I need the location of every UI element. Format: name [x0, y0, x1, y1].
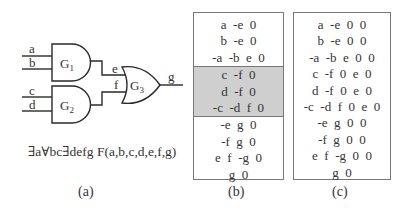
- wire-label-g: g: [168, 69, 175, 84]
- clause-row: e f -g 0 0: [294, 148, 390, 164]
- wire-f: [91, 92, 127, 105]
- clause-row-shaded: c -f 0: [194, 67, 283, 83]
- wire-label-e: e: [112, 61, 118, 76]
- clause-row: -f g 0 0: [294, 132, 390, 148]
- input-label-a: a: [29, 41, 35, 56]
- wire-e: [91, 61, 127, 75]
- wire-label-f: f: [114, 77, 119, 92]
- clause-row: e f -g 0: [194, 150, 283, 166]
- clause-row: b -e 0: [194, 33, 283, 49]
- clause-row: -e g 0 0: [294, 115, 390, 131]
- input-label-d: d: [29, 97, 36, 112]
- clause-row: c -f 0 e 0: [294, 66, 390, 82]
- clause-row: a -e 0: [194, 17, 283, 33]
- clause-box-c: a -e 0 0 b -e 0 0 -a -b e 0 0 c -f 0 e 0…: [293, 12, 391, 180]
- clause-row: -a -b e 0: [194, 50, 283, 66]
- caption-a: (a): [78, 184, 94, 200]
- shaded-clause-group: c -f 0 d -f 0 -c -d f 0: [194, 66, 283, 117]
- clause-row: g 0: [194, 167, 283, 183]
- clause-row: -e g 0: [194, 117, 283, 133]
- clause-box-b: a -e 0 b -e 0 -a -b e 0 c -f 0 d -f 0 -c…: [193, 12, 284, 180]
- circuit-diagram: a b c d G1 G2 e f G3 g: [0, 0, 190, 140]
- qbf-formula: ∃a∀bc∃defg F(a,b,c,d,e,f,g): [28, 143, 176, 160]
- input-label-c: c: [29, 83, 35, 98]
- input-label-b: b: [29, 55, 36, 70]
- clause-row: a -e 0 0: [294, 17, 390, 33]
- clause-row: b -e 0 0: [294, 33, 390, 49]
- caption-b: (b): [228, 184, 244, 200]
- clause-row: -a -b e 0 0: [294, 50, 390, 66]
- clause-row: -f g 0: [194, 134, 283, 150]
- clause-row: g 0: [294, 165, 390, 181]
- clause-row-shaded: -c -d f 0: [194, 100, 283, 116]
- caption-c: (c): [332, 184, 348, 200]
- clause-row: d -f 0 e 0: [294, 83, 390, 99]
- clause-row: -c -d f 0 e 0: [294, 99, 390, 115]
- clause-row-shaded: d -f 0: [194, 84, 283, 100]
